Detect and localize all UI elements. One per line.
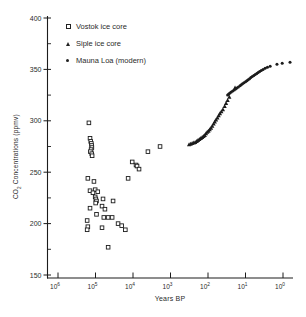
data-point-vostok xyxy=(85,228,89,232)
data-point-vostok xyxy=(90,154,94,158)
data-point-vostok xyxy=(120,224,124,228)
co2-scatter-figure: 150200250300350400106105104103102101100 … xyxy=(0,0,306,317)
legend-item-siple: Siple ice core xyxy=(66,38,146,49)
data-point-vostok xyxy=(94,201,98,205)
legend-item-vostok: Vostok ice core xyxy=(66,21,146,32)
x-tick-label: 104 xyxy=(125,282,135,290)
data-point-vostok xyxy=(95,213,99,217)
data-point-vostok xyxy=(137,167,141,171)
data-point-vostok xyxy=(158,145,162,149)
filled-dot-icon xyxy=(66,59,76,62)
y-axis-title-prefix: CO xyxy=(12,189,19,199)
y-axis-title-suffix: Concentrations (ppmv) xyxy=(12,114,19,186)
data-point-vostok xyxy=(124,228,128,232)
data-point-vostok xyxy=(91,191,95,195)
data-point-vostok xyxy=(130,160,134,164)
open-square-icon xyxy=(66,24,76,29)
filled-triangle-icon xyxy=(66,42,76,46)
x-tick-label: 100 xyxy=(275,282,285,290)
y-tick-label: 200 xyxy=(30,220,42,227)
y-tick-label: 300 xyxy=(30,117,42,124)
x-tick-label: 102 xyxy=(200,282,210,290)
data-point-vostok xyxy=(116,222,120,226)
legend-label: Siple ice core xyxy=(76,39,121,48)
data-point-vostok xyxy=(146,150,150,154)
data-point-vostok xyxy=(106,216,110,220)
x-tick-label: 101 xyxy=(238,282,248,290)
data-point-vostok xyxy=(85,219,89,223)
x-tick-label: 105 xyxy=(88,282,98,290)
data-point-vostok xyxy=(96,190,100,194)
y-tick-label: 250 xyxy=(30,169,42,176)
data-point-vostok xyxy=(103,207,107,211)
y-tick-label: 400 xyxy=(30,15,42,22)
data-point-maunaloa xyxy=(275,63,278,66)
data-point-vostok xyxy=(111,199,115,203)
data-point-vostok xyxy=(86,177,90,181)
x-tick-label: 103 xyxy=(163,282,173,290)
data-point-vostok xyxy=(101,197,105,201)
data-point-maunaloa xyxy=(269,65,272,68)
data-point-vostok xyxy=(126,177,130,181)
y-axis-title: CO2 Concentrations (ppmv) xyxy=(12,97,21,217)
data-point-vostok xyxy=(102,216,106,220)
legend: Vostok ice core Siple ice core Mauna Loa… xyxy=(66,21,146,66)
legend-label: Mauna Loa (modern) xyxy=(76,56,146,65)
data-point-vostok xyxy=(106,245,110,249)
y-tick-label: 150 xyxy=(30,272,42,279)
data-point-maunaloa xyxy=(266,66,269,69)
data-point-vostok xyxy=(92,180,96,184)
data-point-maunaloa xyxy=(281,62,284,65)
data-point-maunaloa xyxy=(289,61,292,64)
data-point-vostok xyxy=(110,216,114,220)
data-point-vostok xyxy=(88,206,92,210)
data-point-vostok xyxy=(87,121,91,125)
x-tick-label: 106 xyxy=(50,282,60,290)
legend-item-maunaloa: Mauna Loa (modern) xyxy=(66,55,146,66)
plot-area: 150200250300350400106105104103102101100 xyxy=(0,0,306,317)
y-tick-label: 350 xyxy=(30,66,42,73)
legend-label: Vostok ice core xyxy=(76,22,127,31)
data-point-vostok xyxy=(100,226,104,230)
x-axis-title: Years BP xyxy=(130,295,210,302)
